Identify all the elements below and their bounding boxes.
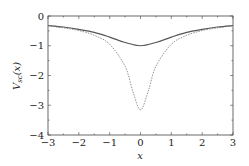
y-tick-label: −3 <box>29 100 44 111</box>
dashed-line <box>48 26 233 110</box>
y-axis-label: Vsc(x) <box>11 62 24 90</box>
x-axis-label: x <box>137 150 143 161</box>
y-tick-label: −1 <box>29 40 44 51</box>
y-tick-label: −2 <box>29 70 44 81</box>
y-tick-label: 0 <box>38 11 44 22</box>
x-tick-label: −1 <box>102 137 117 148</box>
axis-ticks <box>48 16 233 135</box>
x-tick-label: 3 <box>230 137 236 148</box>
svg-text:Vsc(x): Vsc(x) <box>11 62 24 90</box>
x-tick-label: −2 <box>71 137 86 148</box>
chart: −3−2−101230−1−2−3−4 x Vsc(x) <box>0 0 249 166</box>
x-tick-label: 0 <box>137 137 143 148</box>
x-tick-label: 2 <box>199 137 205 148</box>
tick-labels: −3−2−101230−1−2−3−4 <box>29 11 236 149</box>
x-tick-label: 1 <box>168 137 174 148</box>
data-lines <box>48 26 233 110</box>
plot-border <box>48 16 233 135</box>
plot-frame <box>48 16 233 135</box>
y-tick-label: −4 <box>29 130 44 141</box>
solid-line <box>48 26 233 46</box>
